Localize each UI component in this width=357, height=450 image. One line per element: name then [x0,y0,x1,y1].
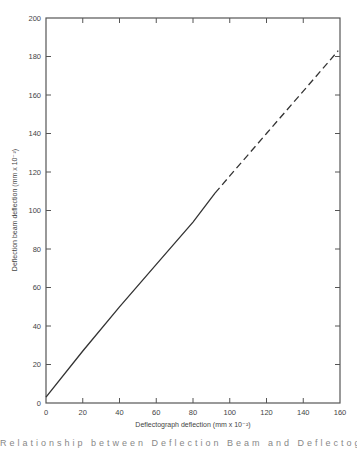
figure-caption: Relationship between Deflection Beam and… [0,438,357,450]
y-axis-title: Deflection beam deflection (mm x 10⁻²) [11,149,19,271]
measured-line [46,193,215,397]
y-tick-label: 160 [28,91,41,100]
x-tick-label: 60 [152,408,160,417]
x-tick-label: 0 [44,408,48,417]
x-tick-label: 100 [223,408,236,417]
y-axis-ticks: 020406080100120140160180200 [28,14,340,408]
y-tick-label: 180 [28,52,41,61]
x-tick-label: 40 [115,408,123,417]
x-tick-label: 80 [189,408,197,417]
x-axis-title: Deflectograph deflection (mm x 10⁻²) [135,421,250,429]
y-tick-label: 60 [33,283,41,292]
y-tick-label: 0 [37,399,41,408]
extrapolated-line [215,51,338,194]
y-tick-label: 200 [28,14,41,23]
data-lines [46,51,338,398]
x-axis-ticks: 020406080100120140160 [44,18,346,417]
plot-frame [46,18,340,403]
y-tick-label: 20 [33,360,41,369]
y-tick-label: 40 [33,322,41,331]
y-tick-label: 100 [28,206,41,215]
x-tick-label: 20 [79,408,87,417]
x-tick-label: 160 [334,408,347,417]
plot-border [46,18,340,403]
y-tick-label: 80 [33,245,41,254]
x-tick-label: 140 [297,408,310,417]
x-tick-label: 120 [260,408,273,417]
y-tick-label: 140 [28,129,41,138]
y-tick-label: 120 [28,168,41,177]
